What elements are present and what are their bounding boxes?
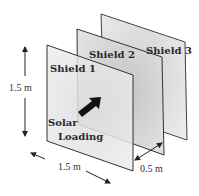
shield-diagram: Shield 2 Shield 3 Shield 1 Solar Loading… (0, 0, 199, 196)
shield-2-label: Shield 2 (89, 49, 135, 60)
spacing-label: 0.5 m (140, 163, 163, 174)
width-label: 1.5 m (58, 161, 81, 172)
solar-loading-label-line1: Solar (48, 117, 78, 128)
shield-3-label: Shield 3 (146, 45, 192, 56)
solar-loading-label-line2: Loading (58, 131, 103, 142)
height-label: 1.5 m (9, 82, 32, 93)
shield-1-label: Shield 1 (50, 63, 96, 74)
